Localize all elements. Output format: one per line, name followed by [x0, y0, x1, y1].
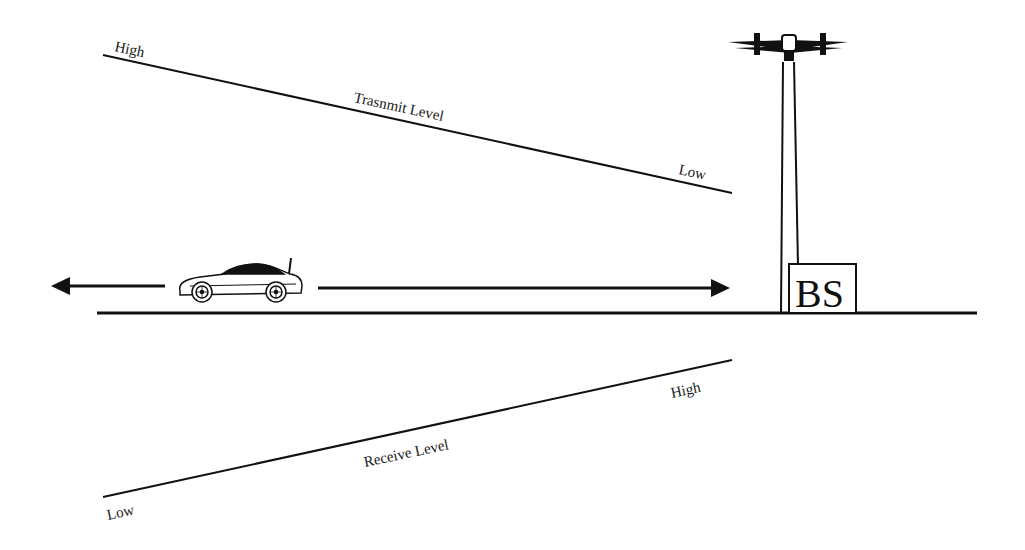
- receive-level-line: [103, 360, 732, 497]
- receive-level-group: Low Receive Level High: [103, 360, 732, 523]
- left-arrow: [51, 277, 165, 295]
- right-arrow: [318, 279, 730, 297]
- receive-high-label: High: [669, 379, 702, 401]
- transmit-level-label: Trasnmit Level: [352, 89, 445, 124]
- right-arrowhead-icon: [711, 279, 730, 297]
- car-icon: [180, 258, 302, 302]
- base-station-box: BS: [789, 264, 856, 316]
- transmit-level-group: High Trasnmit Level Low: [103, 38, 732, 193]
- transmit-level-line: [103, 55, 732, 193]
- receive-low-label: Low: [105, 502, 135, 523]
- base-station-label: BS: [795, 271, 844, 316]
- transmit-low-label: Low: [677, 161, 707, 182]
- transmit-high-label: High: [113, 38, 146, 60]
- power-control-diagram: High Trasnmit Level Low Low Receive Leve…: [0, 0, 1025, 550]
- receive-level-label: Receive Level: [362, 436, 450, 470]
- left-arrowhead-icon: [51, 277, 70, 295]
